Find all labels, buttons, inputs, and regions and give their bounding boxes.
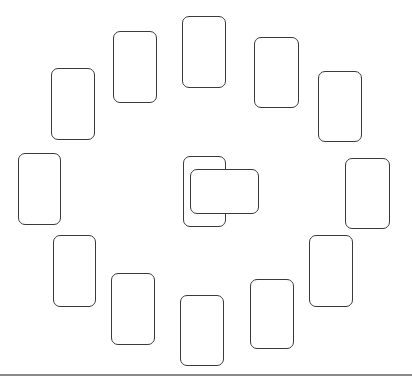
card-pos-top-right-1 — [254, 37, 299, 108]
card-spread-diagram — [0, 0, 412, 379]
card-pos-top-right-2 — [318, 71, 362, 142]
card-pos-bottom — [180, 295, 224, 366]
card-pos-top-left-2 — [51, 68, 95, 140]
card-pos-left — [18, 153, 61, 225]
card-pos-top-left-1 — [113, 31, 157, 103]
card-pos-bottom-left-1 — [53, 235, 96, 307]
card-pos-top — [182, 16, 226, 88]
bottom-divider-line — [0, 374, 412, 376]
card-pos-bottom-right-2 — [250, 279, 294, 349]
card-pos-right — [345, 158, 390, 229]
card-crossing-card — [190, 169, 259, 214]
card-pos-bottom-right-1 — [309, 235, 353, 307]
card-pos-bottom-left-2 — [111, 273, 155, 345]
